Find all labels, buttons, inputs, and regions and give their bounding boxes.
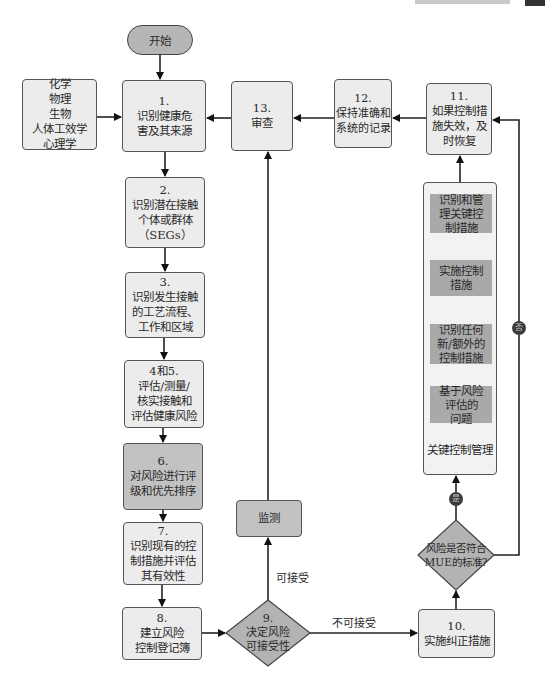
step-text: 如果控制措 — [432, 104, 487, 119]
step-4-5-box: 4和5. 评估/测量/ 核实接触和 评估健康风险 — [124, 360, 204, 428]
key-control-item-identify-manage: 识别和管 理关键控 制措施 — [430, 194, 492, 233]
hazard-biological: 生物 — [49, 107, 71, 122]
step-6-box: 6. 对风险进行评 级和优先排序 — [123, 443, 203, 510]
step-text: 核实接触和 — [137, 394, 192, 409]
step-text: 识别潜在接触 — [132, 198, 198, 213]
decision-text: 风险是否符合 — [418, 541, 494, 555]
step-text: 施失效，及 — [432, 119, 487, 134]
step-text: 系统的记录 — [336, 121, 391, 136]
step-1-box: 1. 识别健康危 害及其来源 — [122, 80, 206, 152]
step-3-box: 3. 识别发生接触 的工艺流程、 工作和区域 — [125, 272, 205, 338]
hazard-types-box: 化学 物理 生物 人体工效学 心理学 — [22, 79, 97, 150]
step-text: 级和优先排序 — [130, 484, 196, 499]
step-number: 3. — [160, 275, 171, 290]
item-text: 理关键控 — [439, 207, 483, 221]
monitor-box: 监测 — [236, 500, 302, 537]
item-text: 制措施 — [445, 221, 478, 235]
step-number: 2. — [160, 183, 171, 198]
start-node: 开始 — [127, 25, 193, 55]
monitor-label: 监测 — [258, 511, 280, 526]
step-number: 7. — [158, 524, 169, 539]
item-text: 基于风险 — [439, 384, 483, 398]
item-text: 识别任何 — [439, 323, 483, 337]
key-control-item-identify-new: 识别任何 新/额外的 控制措施 — [430, 324, 492, 364]
decision-text: MUE的标准? — [418, 555, 494, 569]
item-text: 问题 — [450, 412, 472, 426]
step-text: 的工艺流程、 — [132, 305, 198, 320]
item-text: 新/额外的 — [437, 337, 485, 351]
step-text: 可接受性 — [233, 640, 303, 654]
item-text: 控制措施 — [439, 351, 483, 365]
step-text: 制措施并评估 — [130, 554, 196, 569]
step-text: 审查 — [251, 116, 273, 131]
item-text: 识别和管 — [439, 193, 483, 207]
step-text: 识别现有的控 — [130, 539, 196, 554]
step-text: 评估/测量/ — [138, 379, 190, 394]
step-12-box: 12. 保持准确和 系统的记录 — [334, 79, 392, 148]
step-text: 控制登记簿 — [135, 641, 190, 656]
step-number: 4和5. — [149, 364, 178, 379]
acceptable-label: 可接受 — [276, 569, 309, 585]
step-text: 建立风险 — [140, 626, 184, 641]
step-9-decision: 9. 决定风险 可接受性 — [233, 612, 303, 654]
start-label: 开始 — [149, 32, 171, 48]
step-number: 11. — [450, 89, 468, 104]
item-text: 实施控制 — [439, 264, 483, 278]
item-text: 措施 — [450, 278, 472, 292]
mue-decision: 风险是否符合 MUE的标准? — [418, 541, 494, 569]
step-text: 实施纠正措施 — [424, 634, 490, 649]
step-number: 8. — [157, 611, 168, 626]
step-8-box: 8. 建立风险 控制登记簿 — [122, 607, 202, 660]
step-text: 识别健康危 — [137, 109, 192, 124]
yes-circle: 是 — [449, 492, 463, 506]
key-control-item-implement: 实施控制 措施 — [430, 260, 492, 296]
step-10-box: 10. 实施纠正措施 — [418, 609, 495, 658]
step-number: 9. — [233, 612, 303, 626]
hazard-chemical: 化学 — [49, 77, 71, 92]
hazard-ergonomic: 人体工效学 — [32, 122, 87, 137]
step-2-box: 2. 识别潜在接触 个体或群体 （SEGs） — [125, 177, 205, 248]
key-control-title: 关键控制管理 — [424, 441, 496, 457]
step-text: 对风险进行评 — [130, 469, 196, 484]
step-13-box: 13. 审查 — [231, 81, 293, 151]
step-number: 12. — [354, 91, 372, 106]
step-text: 其有效性 — [141, 569, 185, 584]
step-text: 个体或群体 — [138, 213, 193, 228]
step-text: （SEGs） — [138, 228, 191, 243]
key-control-management-group: 识别和管 理关键控 制措施 实施控制 措施 识别任何 新/额外的 控制措施 基于… — [423, 182, 497, 475]
hazard-physical: 物理 — [49, 92, 71, 107]
step-text: 评估健康风险 — [131, 409, 197, 424]
step-11-box: 11. 如果控制措 施失效，及 时恢复 — [426, 83, 492, 155]
step-text: 时恢复 — [443, 134, 476, 149]
step-text: 保持准确和 — [336, 106, 391, 121]
key-control-item-risk-issues: 基于风险 评估的 问题 — [430, 386, 492, 423]
step-number: 10. — [447, 619, 465, 634]
unacceptable-label: 不可接受 — [332, 614, 376, 630]
no-circle: 否 — [512, 321, 526, 335]
step-7-box: 7. 识别现有的控 制措施并评估 其有效性 — [123, 522, 203, 585]
step-text: 害及其来源 — [137, 124, 192, 139]
step-number: 6. — [158, 454, 169, 469]
hazard-psychological: 心理学 — [43, 137, 76, 152]
item-text: 评估的 — [445, 398, 478, 412]
step-text: 识别发生接触 — [132, 290, 198, 305]
step-text: 工作和区域 — [138, 320, 193, 335]
step-number: 1. — [159, 94, 170, 109]
step-number: 13. — [253, 101, 271, 116]
step-text: 决定风险 — [233, 626, 303, 640]
